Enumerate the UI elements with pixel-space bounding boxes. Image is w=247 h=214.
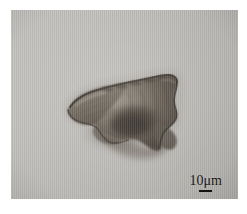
- specimen-container: [11, 10, 238, 199]
- scale-bar-line: [199, 190, 212, 192]
- specimen-image: [11, 10, 238, 199]
- micrograph-panel: 10μm: [11, 10, 238, 199]
- scale-bar: 10μm: [190, 173, 222, 192]
- micrograph-figure: 10μm: [0, 0, 247, 214]
- figure-caption: [9, 205, 179, 214]
- scale-bar-label: 10μm: [190, 173, 222, 188]
